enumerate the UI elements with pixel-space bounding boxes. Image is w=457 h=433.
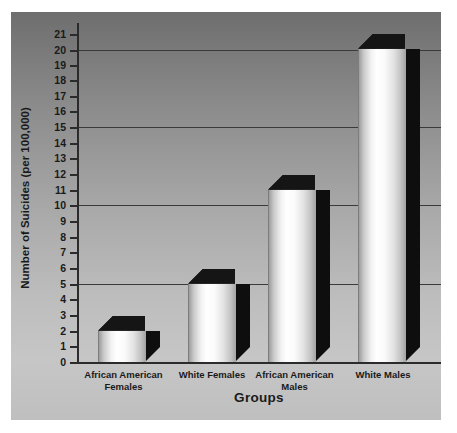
bar-side-face bbox=[235, 284, 250, 362]
bar-top-face bbox=[98, 316, 145, 331]
chart-figure: Number of Suicides (per 100,000) 21 20 1… bbox=[11, 12, 441, 420]
x-tick-label-african-american-females: African American Females bbox=[71, 369, 176, 392]
bar-top-face bbox=[268, 175, 315, 190]
y-axis-title-text: Number of Suicides (per 100,000) bbox=[19, 107, 31, 289]
plot-area: 21 20 19 18 17 16 15 14 13 12 11 10 9 8 … bbox=[77, 33, 441, 362]
bar-side-face bbox=[315, 190, 330, 362]
x-tick-label-white-males: White Males bbox=[339, 369, 427, 381]
bar-white-females bbox=[188, 284, 235, 362]
bar-side-face bbox=[145, 331, 160, 362]
bar-front-face bbox=[358, 49, 406, 362]
bar-african-american-males bbox=[268, 190, 315, 362]
bar-top-face bbox=[358, 34, 405, 49]
bar-front-face bbox=[188, 284, 236, 362]
bar-african-american-females bbox=[98, 331, 145, 362]
bar-top-face bbox=[188, 269, 235, 284]
y-axis-title: Number of Suicides (per 100,000) bbox=[17, 33, 33, 362]
x-axis-title: Groups bbox=[77, 390, 441, 405]
x-axis-line bbox=[77, 362, 441, 364]
x-tick-label-african-american-males: African American Males bbox=[242, 369, 347, 392]
bar-side-face bbox=[405, 49, 420, 362]
bar-front-face bbox=[98, 331, 146, 362]
y-axis-line bbox=[77, 23, 79, 364]
bar-white-males bbox=[358, 49, 405, 362]
bar-front-face bbox=[268, 190, 316, 362]
